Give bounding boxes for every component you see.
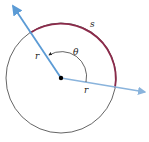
diagram-canvas: s θ r r: [0, 0, 149, 142]
center-point: [59, 76, 63, 80]
arc-label: s: [90, 19, 95, 29]
radius-label-lower: r: [84, 85, 89, 95]
angle-arc: [49, 52, 87, 82]
radius-label-upper: r: [35, 51, 40, 61]
angle-label: θ: [73, 47, 79, 57]
radius-ray-right: [61, 78, 145, 92]
radius-ray-upper: [13, 6, 61, 78]
circle-diagram: s θ r r: [0, 0, 149, 142]
